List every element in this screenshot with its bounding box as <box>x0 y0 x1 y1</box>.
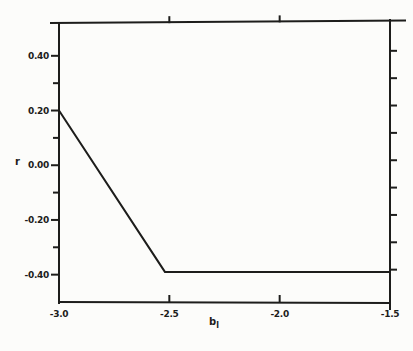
y-tick-label: 0.00 <box>28 160 49 170</box>
x-axis-label: bl <box>209 316 219 327</box>
y-tick-label: -0.20 <box>25 215 49 225</box>
y-axis-label: r <box>15 156 20 167</box>
chart-canvas: 0.400.200.00-0.20-0.40-3.0-2.5-2.0-1.5 <box>0 0 413 351</box>
x-tick-label: -2.0 <box>270 309 289 319</box>
x-tick-label: -2.5 <box>160 309 179 319</box>
top-axis <box>50 21 406 24</box>
y-tick-label: 0.20 <box>28 106 49 116</box>
x-tick-label: -3.0 <box>50 309 69 319</box>
bottom-axis <box>59 302 390 303</box>
data-line <box>59 111 390 272</box>
y-tick-label: -0.40 <box>25 270 49 280</box>
line-chart-figure: 0.400.200.00-0.20-0.40-3.0-2.5-2.0-1.5 r… <box>0 0 413 351</box>
x-axis-label-subscript: l <box>216 321 219 330</box>
y-axis-label-text: r <box>15 156 20 167</box>
y-tick-label: 0.40 <box>28 51 49 61</box>
x-tick-label: -1.5 <box>381 309 400 319</box>
